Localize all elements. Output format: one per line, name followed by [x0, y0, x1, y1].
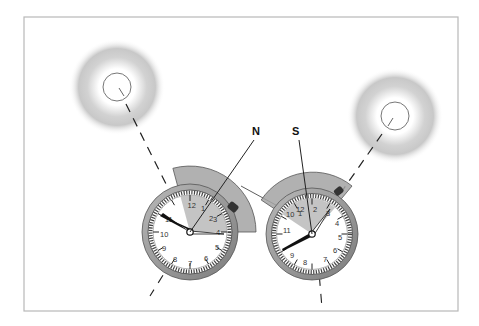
- numeral-8: 8: [303, 258, 307, 267]
- sun-disc-icon: [381, 102, 409, 130]
- sun-compass-diagram: 12 1 2 3 4 5 6 7 8 9 10 11 N: [0, 0, 479, 326]
- numeral-9: 9: [162, 244, 166, 253]
- numeral-9: 9: [290, 251, 294, 260]
- numeral-11: 11: [283, 226, 291, 235]
- numeral-12: 12: [188, 201, 196, 210]
- numeral-6: 6: [333, 246, 337, 255]
- left-sun: [69, 39, 165, 135]
- numeral-4: 4: [216, 228, 220, 237]
- right-sun: [347, 68, 443, 164]
- numeral-3: 3: [213, 215, 217, 224]
- numeral-5: 5: [215, 243, 219, 252]
- numeral-5: 5: [338, 233, 342, 242]
- numeral-10: 10: [286, 210, 294, 219]
- sun-disc-icon: [103, 73, 131, 101]
- numeral-4: 4: [335, 219, 339, 228]
- numeral-8: 8: [173, 255, 177, 264]
- numeral-2: 2: [313, 205, 317, 214]
- north-label: N: [252, 125, 260, 137]
- south-label: S: [292, 125, 299, 137]
- numeral-10: 10: [160, 230, 168, 239]
- numeral-6: 6: [204, 254, 208, 263]
- numeral-1: 1: [298, 209, 302, 218]
- numeral-7: 7: [188, 259, 192, 268]
- numeral-7: 7: [323, 255, 327, 264]
